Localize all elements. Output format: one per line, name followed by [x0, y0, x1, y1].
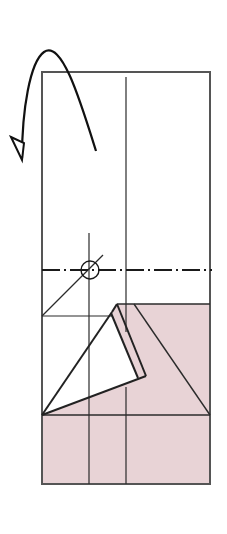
diagonal-reference	[42, 255, 103, 316]
turn-over-arrow-icon	[11, 50, 96, 160]
origami-diagram	[0, 0, 227, 534]
